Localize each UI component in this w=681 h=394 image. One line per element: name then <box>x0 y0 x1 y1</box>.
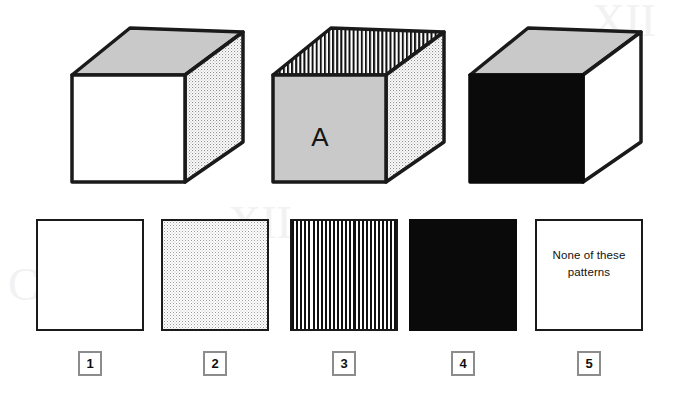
cube-3 <box>470 28 641 182</box>
cube-1 <box>72 28 243 182</box>
answer-option-3[interactable]: 3 <box>290 219 400 331</box>
cube-2: A <box>273 28 444 182</box>
cube-1-front-face <box>72 75 185 182</box>
answer-swatch-5[interactable]: None of these patterns <box>535 219 643 331</box>
cube-2-front-face <box>273 75 386 182</box>
answer-swatch-3[interactable] <box>290 219 398 331</box>
answer-number-2[interactable]: 2 <box>203 351 227 376</box>
answer-option-2[interactable]: 2 <box>161 219 271 331</box>
answer-option-1[interactable]: 1 <box>36 219 146 331</box>
answer-number-3[interactable]: 3 <box>332 351 356 376</box>
answer-option-5[interactable]: None of these patterns 5 <box>535 219 645 331</box>
cube-2-label: A <box>311 122 329 152</box>
answer-options-row: 1 2 3 4 None of these patterns <box>0 205 681 394</box>
answer-swatch-2[interactable] <box>161 219 269 331</box>
answer-number-5[interactable]: 5 <box>577 351 601 376</box>
answer-option-4[interactable]: 4 <box>409 219 519 331</box>
figure-canvas: C XII XII <box>0 0 681 394</box>
answer-swatch-4[interactable] <box>409 219 517 331</box>
answer-number-4[interactable]: 4 <box>451 351 475 376</box>
answer-swatch-1[interactable] <box>36 219 144 331</box>
answer-swatch-5-text: None of these patterns <box>537 247 641 281</box>
cube-group: A <box>0 0 681 200</box>
cube-3-front-face <box>470 75 583 182</box>
answer-number-1[interactable]: 1 <box>78 351 102 376</box>
